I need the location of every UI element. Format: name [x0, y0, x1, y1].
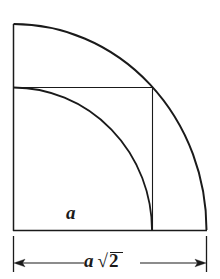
figure-canvas: [0, 0, 220, 279]
dimension-label-a-part: a: [84, 251, 94, 270]
square-root-group: √2: [97, 251, 119, 270]
geometry-figure: a a √2: [0, 0, 220, 279]
side-length-label-a: a: [66, 203, 76, 222]
vinculum-bar: [110, 252, 123, 253]
small-quarter-arc: [14, 88, 153, 231]
radical-sign-icon: √: [98, 251, 108, 270]
dimension-label-a-sqrt-2: a √2: [84, 251, 118, 270]
